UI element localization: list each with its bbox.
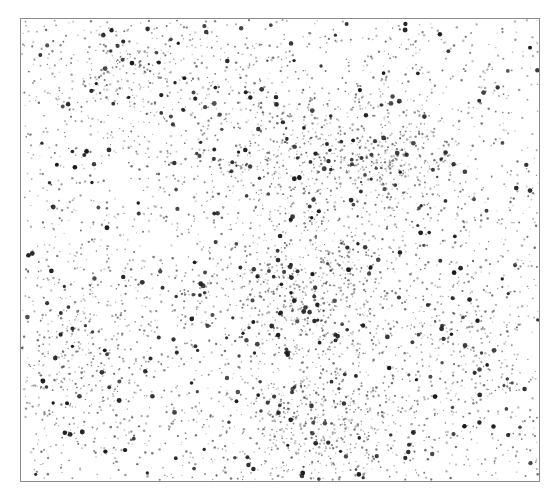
plot-frame [20, 18, 540, 482]
scatter-plot-canvas [0, 0, 557, 501]
scatter-points [21, 19, 539, 481]
